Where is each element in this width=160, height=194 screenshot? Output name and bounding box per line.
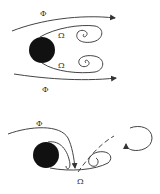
phi-top-label: Φ <box>40 9 47 18</box>
cylinder-body <box>29 37 55 63</box>
wake-lower <box>50 152 111 170</box>
phi-label: Φ <box>36 119 43 128</box>
flow-diagram: Φ Ω Ω Φ Φ Ω <box>0 0 160 194</box>
omega-label: Ω <box>77 177 84 186</box>
upper-streamline <box>12 17 115 31</box>
lower-streamline <box>14 74 116 80</box>
bottom-panel: Φ Ω <box>8 119 152 186</box>
top-panel: Φ Ω Ω Φ <box>12 9 116 94</box>
omega-lower-label: Ω <box>58 61 65 70</box>
omega-upper-label: Ω <box>58 31 65 40</box>
phi-bottom-label: Φ <box>42 85 49 94</box>
shed-vortex <box>126 126 152 150</box>
cylinder-body <box>33 142 59 168</box>
